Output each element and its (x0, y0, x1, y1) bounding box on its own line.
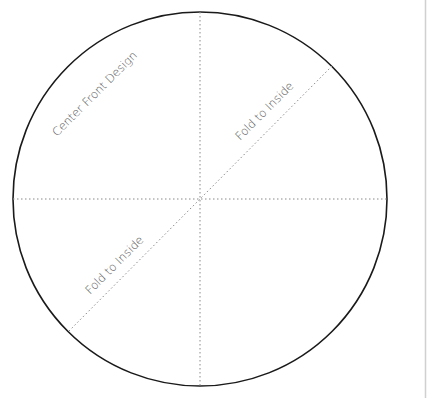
fold-to-inside-upper-label: Fold to Inside (232, 79, 296, 143)
fold-to-inside-lower-label: Fold to Inside (82, 233, 146, 297)
fold-template-diagram: Center Front Design Fold to Inside Fold … (0, 0, 431, 398)
center-front-design-label: Center Front Design (49, 48, 140, 139)
